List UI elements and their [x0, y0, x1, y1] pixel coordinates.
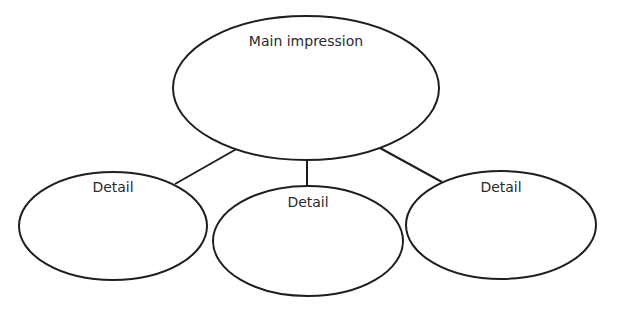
- detail-label-middle: Detail: [287, 194, 328, 210]
- main-impression-label: Main impression: [249, 33, 363, 49]
- detail-node-left: Detail: [19, 172, 207, 280]
- connector-left: [175, 147, 240, 184]
- main-impression-node: Main impression: [173, 16, 439, 160]
- connector-right: [380, 148, 442, 182]
- detail-node-right: Detail: [406, 171, 596, 279]
- detail-node-middle: Detail: [213, 186, 403, 296]
- detail-label-right: Detail: [480, 179, 521, 195]
- detail-label-left: Detail: [92, 179, 133, 195]
- concept-map-diagram: Main impression Detail Detail Detail: [0, 0, 617, 312]
